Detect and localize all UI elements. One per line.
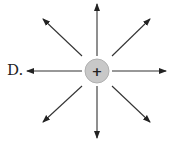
plus-sign-icon: + — [92, 64, 103, 79]
field-lines-svg: + — [0, 0, 177, 144]
field-line-down-right-arrow-icon — [112, 86, 150, 122]
field-line-up-right-arrow-icon — [112, 19, 150, 56]
field-line-up-left-arrow-icon — [43, 19, 82, 56]
electric-field-diagram: D. + — [0, 0, 177, 144]
field-line-down-left-arrow-icon — [43, 86, 82, 122]
